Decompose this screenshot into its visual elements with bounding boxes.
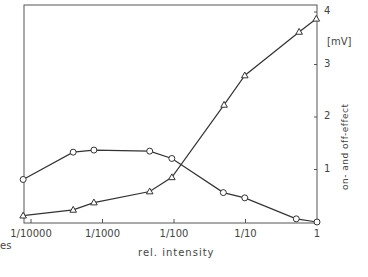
- circle-marker: [314, 219, 320, 225]
- x-axis-ticks: [31, 219, 317, 223]
- triangles-line: [23, 19, 316, 216]
- plot-frame: [24, 5, 317, 223]
- circle-marker: [70, 149, 76, 155]
- circle-marker: [20, 176, 26, 182]
- y-axis-unit: [mV]: [327, 36, 351, 47]
- x-tick-label: 1/1000: [85, 228, 120, 239]
- triangle-marker: [296, 28, 303, 34]
- circle-marker: [147, 148, 153, 154]
- x-tick-label: 1: [314, 228, 320, 239]
- x-axis-label: rel. intensity: [138, 247, 215, 258]
- triangle-marker: [313, 15, 320, 21]
- circle-marker: [220, 190, 226, 196]
- y-tick-label: 4: [324, 5, 330, 16]
- y-tick-label: 3: [324, 58, 330, 69]
- y-tick-label: 2: [324, 110, 330, 121]
- partial-left-label: es: [0, 240, 11, 251]
- y-axis-label: on- and off-effect: [340, 103, 350, 190]
- circle-marker: [169, 155, 175, 161]
- x-tick-label: 1/10000: [10, 228, 52, 239]
- circle-marker: [293, 216, 299, 222]
- y-tick-label: 1: [324, 163, 330, 174]
- x-tick-label: 1/10: [234, 228, 256, 239]
- circle-marker: [91, 147, 97, 153]
- data-series: [20, 15, 320, 225]
- x-tick-label: 1/100: [160, 228, 189, 239]
- circle-marker: [242, 195, 248, 201]
- triangle-marker: [146, 188, 153, 194]
- triangle-marker: [241, 72, 248, 78]
